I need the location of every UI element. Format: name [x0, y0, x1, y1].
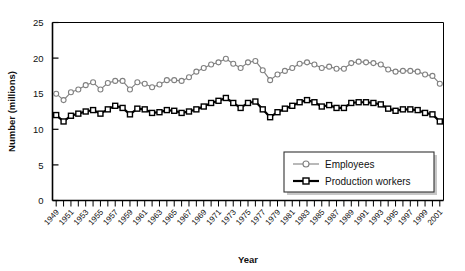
- data-point-marker: [179, 110, 184, 115]
- data-point-marker: [231, 61, 236, 66]
- data-point-marker: [312, 100, 317, 105]
- data-point-marker: [282, 106, 287, 111]
- data-point-marker: [400, 107, 405, 112]
- data-point-marker: [61, 98, 66, 103]
- x-tick-label: 2001: [426, 207, 445, 227]
- y-tick-label: 5: [38, 160, 43, 171]
- data-point-marker: [54, 113, 59, 118]
- data-point-marker: [83, 83, 88, 88]
- data-point-marker: [201, 104, 206, 109]
- data-point-marker: [364, 60, 369, 65]
- data-point-marker: [275, 110, 280, 115]
- data-point-marker: [341, 105, 346, 110]
- data-point-marker: [334, 66, 339, 71]
- legend-label: Production workers: [325, 176, 411, 187]
- data-point-marker: [91, 80, 96, 85]
- data-point-marker: [393, 108, 398, 113]
- data-point-marker: [127, 87, 132, 92]
- data-point-marker: [209, 100, 214, 105]
- x-tick-label: 1997: [396, 207, 415, 227]
- data-point-marker: [150, 110, 155, 115]
- x-tick-label: 1953: [72, 207, 91, 227]
- legend-label: Employees: [325, 159, 374, 170]
- x-tick-label: 1985: [308, 207, 327, 227]
- data-point-marker: [68, 113, 73, 118]
- data-point-marker: [61, 119, 66, 124]
- data-point-marker: [297, 61, 302, 66]
- data-point-marker: [172, 108, 177, 113]
- data-point-marker: [120, 105, 125, 110]
- data-point-marker: [312, 62, 317, 67]
- x-tick-label: 1999: [411, 207, 430, 227]
- data-point-marker: [408, 107, 413, 112]
- y-tick-label: 0: [38, 195, 43, 206]
- data-point-marker: [179, 78, 184, 83]
- data-point-marker: [393, 69, 398, 74]
- data-point-marker: [334, 105, 339, 110]
- x-tick-label: 1993: [367, 207, 386, 227]
- x-tick-label: 1959: [116, 207, 135, 227]
- data-point-marker: [223, 56, 228, 61]
- data-point-marker: [253, 58, 258, 63]
- x-tick-label: 1955: [87, 207, 106, 227]
- data-point-marker: [349, 61, 354, 66]
- data-point-marker: [216, 60, 221, 65]
- x-tick-label: 1949: [42, 207, 61, 227]
- data-point-marker: [364, 100, 369, 105]
- y-tick-label: 20: [33, 53, 44, 64]
- data-point-marker: [415, 69, 420, 74]
- data-point-marker: [231, 100, 236, 105]
- data-point-marker: [135, 106, 140, 111]
- data-point-marker: [430, 73, 435, 78]
- data-point-marker: [319, 66, 324, 71]
- data-point-marker: [194, 69, 199, 74]
- data-point-marker: [157, 82, 162, 87]
- data-point-marker: [378, 102, 383, 107]
- data-point-marker: [142, 81, 147, 86]
- x-axis: 1949195119531955195719591961196319651967…: [42, 201, 445, 266]
- data-point-marker: [83, 109, 88, 114]
- legend-marker-square-icon: [303, 178, 309, 184]
- chart-container: 0510152025Number (millions)1949195119531…: [0, 0, 465, 271]
- x-tick-label: 1971: [205, 207, 224, 227]
- data-point-marker: [105, 81, 110, 86]
- x-tick-label: 1961: [131, 207, 150, 227]
- data-point-marker: [437, 119, 442, 124]
- y-tick-label: 25: [33, 17, 44, 28]
- data-point-marker: [216, 98, 221, 103]
- x-tick-label: 1979: [264, 207, 283, 227]
- data-point-marker: [260, 68, 265, 73]
- legend: EmployeesProduction workers: [284, 152, 437, 195]
- data-point-marker: [297, 100, 302, 105]
- data-point-marker: [371, 100, 376, 105]
- x-tick-label: 1969: [190, 207, 209, 227]
- data-point-marker: [164, 108, 169, 113]
- line-chart: 0510152025Number (millions)1949195119531…: [0, 0, 465, 271]
- data-point-marker: [290, 103, 295, 108]
- data-point-marker: [172, 78, 177, 83]
- x-tick-label: 1951: [57, 207, 76, 227]
- x-tick-label: 1973: [219, 207, 238, 227]
- data-point-marker: [260, 107, 265, 112]
- data-point-marker: [268, 115, 273, 120]
- data-point-marker: [341, 66, 346, 71]
- data-point-marker: [290, 66, 295, 71]
- data-point-marker: [157, 110, 162, 115]
- y-tick-label: 15: [33, 88, 44, 99]
- x-tick-label: 1965: [160, 207, 179, 227]
- data-point-marker: [437, 81, 442, 86]
- data-point-marker: [209, 62, 214, 67]
- data-point-marker: [142, 107, 147, 112]
- data-point-marker: [356, 59, 361, 64]
- data-point-marker: [386, 106, 391, 111]
- data-point-marker: [349, 100, 354, 105]
- y-axis: 0510152025Number (millions): [6, 17, 59, 206]
- data-point-marker: [356, 100, 361, 105]
- x-tick-label: 1995: [382, 207, 401, 227]
- data-point-marker: [135, 80, 140, 85]
- x-tick-label: 1981: [278, 207, 297, 227]
- data-point-marker: [164, 78, 169, 83]
- data-point-marker: [223, 95, 228, 100]
- data-point-marker: [120, 78, 125, 83]
- data-point-marker: [371, 61, 376, 66]
